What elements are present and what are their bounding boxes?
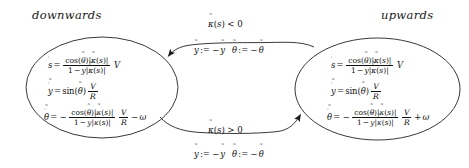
equation-upwards-theta-dot: θ̇˜ = − cos(θ˜)|κ˜(s)| 1−y˜|κ˜(s)| V R +… [327, 109, 429, 126]
equation-upwards-y-dot: ẏ˜ = sin(θ˜) V R [331, 83, 382, 100]
equation-downwards-s-dot: ṡ = cos(θ˜)|κ˜(s)| 1−y˜|κ˜(s)| V [48, 57, 120, 74]
state-label-upwards: upwards [381, 8, 433, 22]
state-label-downwards: downwards [32, 8, 102, 22]
transition-reset-top: y˜ := −y˜ θ˜ := −θ˜ [194, 44, 264, 55]
equation-downwards-y-dot: ẏ˜ = sin(θ˜) V R [48, 83, 99, 100]
transition-guard-top: κ˜(s) < 0 [208, 18, 243, 29]
diagram-canvas: downwards upwards ṡ = cos(θ˜)|κ˜(s)| 1−… [0, 0, 469, 168]
transition-guard-bottom: κ˜(s) > 0 [208, 124, 243, 135]
transition-reset-bottom: y˜ := −y˜ θ˜ := −θ˜ [194, 148, 264, 159]
equation-downwards-theta-dot: θ̇˜ = − cos(θ˜)|κ˜(s)| 1−y˜|κ˜(s)| V R −… [44, 109, 146, 126]
equation-upwards-s-dot: ṡ = cos(θ˜)|κ˜(s)| 1−y˜|κ˜(s)| V [331, 57, 403, 74]
